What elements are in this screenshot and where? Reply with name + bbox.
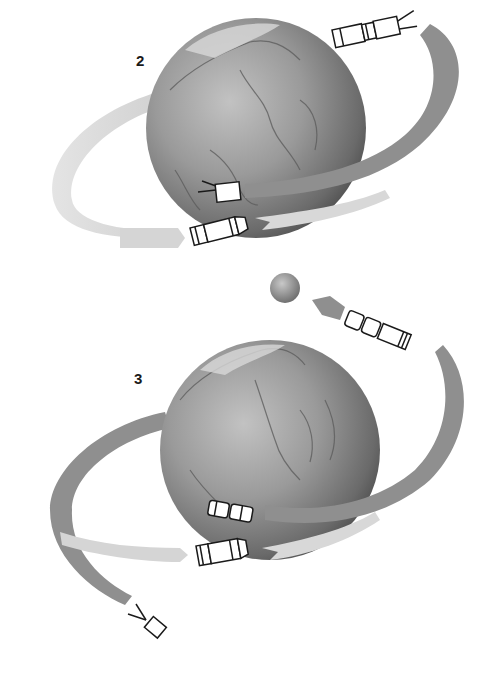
spacecraft-small-antenna [128, 604, 166, 638]
orbit-arrow-tip [120, 228, 185, 248]
diagram-stage: 2 3 [0, 0, 504, 676]
panel-2 [52, 11, 459, 248]
orbit-ribbon-dark-left [50, 412, 170, 605]
spacecraft-module [196, 537, 249, 565]
panel-label-2: 2 [136, 52, 144, 69]
panel-label-3: 3 [134, 370, 142, 387]
docked-spacecraft-stack [344, 310, 411, 350]
diagram-canvas [0, 0, 504, 676]
moon [270, 273, 300, 303]
spacecraft-upper-right [332, 11, 418, 48]
panel-3 [50, 340, 464, 638]
orbit-arrow-to-moon [312, 296, 345, 320]
